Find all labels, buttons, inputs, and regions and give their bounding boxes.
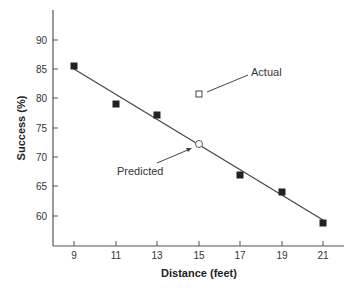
x-tick-label: 19 (276, 250, 288, 261)
y-tick-label: 85 (36, 64, 48, 75)
x-tick-label: 13 (151, 250, 163, 261)
y-tick-label: 90 (36, 35, 48, 46)
data-point (237, 172, 244, 179)
data-point (154, 112, 161, 119)
data-point (279, 189, 286, 196)
x-tick-label: 17 (234, 250, 246, 261)
x-axis-title: Distance (feet) (161, 267, 237, 279)
x-ticks (74, 241, 323, 246)
y-tick-label: 65 (36, 181, 48, 192)
x-tick-label: 15 (193, 250, 205, 261)
predicted-arrow (157, 149, 190, 163)
x-tick-label: 11 (111, 250, 122, 261)
y-tick-labels: 90 85 80 75 70 65 60 (36, 35, 48, 222)
actual-label: Actual (251, 66, 282, 78)
x-tick-labels: 9 11 13 15 17 19 21 (71, 250, 329, 261)
data-point (71, 63, 78, 70)
x-tick-label: 9 (71, 250, 77, 261)
predicted-label: Predicted (117, 165, 163, 177)
actual-arrow (207, 75, 248, 92)
data-point (320, 220, 327, 227)
predicted-point (196, 141, 203, 148)
y-tick-label: 60 (36, 211, 48, 222)
y-tick-label: 75 (36, 123, 48, 134)
actual-point (196, 91, 202, 97)
y-ticks (53, 40, 58, 216)
y-axis-title: Success (%) (15, 95, 27, 160)
y-tick-label: 70 (36, 152, 48, 163)
data-point (113, 101, 120, 108)
x-tick-label: 21 (317, 250, 329, 261)
y-tick-label: 80 (36, 93, 48, 104)
scatter-chart: 90 85 80 75 70 65 60 9 11 13 15 17 19 21… (0, 0, 362, 297)
